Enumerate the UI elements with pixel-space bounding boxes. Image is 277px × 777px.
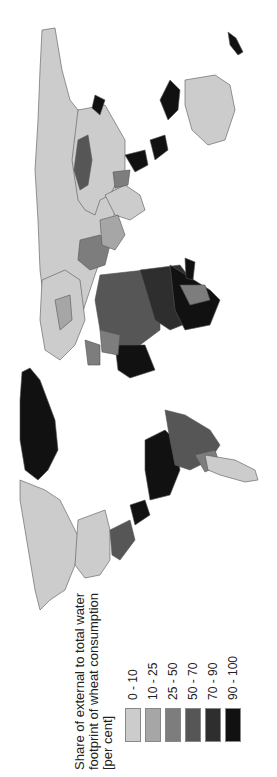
region-usa [75,510,110,578]
region-mexico [110,520,135,560]
region-greenland [20,368,58,480]
region-madagascar [185,258,195,280]
region-australia [185,75,235,145]
legend-label-70-90: 70 - 90 [206,663,220,700]
legend-title: Share of external to total water footpri… [73,593,115,770]
legend-swatch-10-25 [145,708,161,742]
legend-label-25-50: 25 - 50 [166,663,180,700]
region-indonesia-2 [150,135,168,160]
legend-label-50-70: 50 - 70 [186,663,200,700]
region-se-asia-2 [113,170,130,188]
legend-title-line-3: [per cent] [101,593,115,770]
legend-swatch-0-10 [125,708,141,742]
legend-label-10-25: 10 - 25 [146,663,160,700]
region-arabia [100,215,125,250]
region-japan [228,32,243,55]
region-central-america [130,500,150,525]
legend-title-line-1: Share of external to total water [73,593,87,770]
legend-swatch-25-50 [165,708,181,742]
region-south-america-south [205,455,258,482]
region-indonesia [160,80,180,120]
region-canada [20,480,80,610]
legend-title-line-2: footprint of wheat consumption [87,593,101,770]
legend-swatch-70-90 [205,708,221,742]
legend-swatch-50-70 [185,708,201,742]
legend-label-90-100: 90 - 100 [226,656,240,700]
region-se-asia [125,150,148,172]
legend-swatch-90-100 [225,708,241,742]
legend-label-0-10: 0 - 10 [126,669,140,700]
region-africa-west [115,345,155,378]
region-iberia [85,340,100,365]
